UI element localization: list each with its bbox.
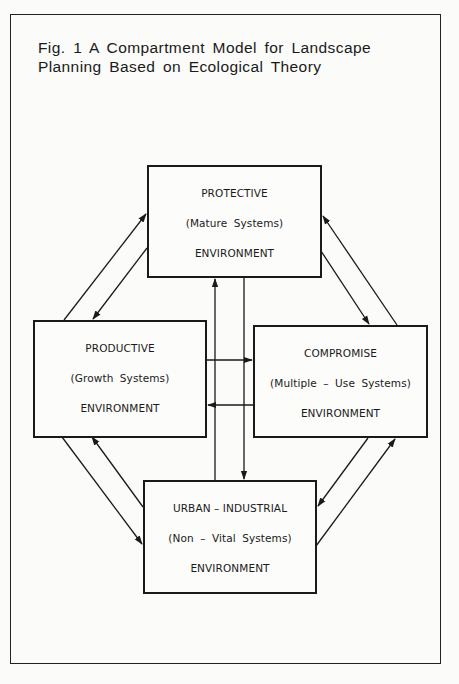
compartment-systems: (Non – Vital Systems): [145, 532, 315, 544]
compartment-systems: (Mature Systems): [149, 217, 320, 229]
productive-environment-box: PRODUCTIVE (Growth Systems) ENVIRONMENT: [33, 320, 207, 438]
arrow-urban-to-productive: [92, 437, 143, 507]
compromise-environment-box: COMPROMISE (Multiple – Use Systems) ENVI…: [253, 325, 428, 438]
compartment-label: ENVIRONMENT: [145, 562, 315, 574]
compartment-name: COMPROMISE: [255, 347, 426, 359]
compartment-name: PRODUCTIVE: [35, 342, 205, 354]
compartment-name: PROTECTIVE: [149, 187, 320, 199]
arrow-productive-to-urban: [62, 437, 142, 544]
compartment-label: ENVIRONMENT: [149, 247, 320, 259]
compartment-label: ENVIRONMENT: [35, 402, 205, 414]
compartment-systems: (Multiple – Use Systems): [255, 377, 426, 389]
arrow-protective-to-productive: [93, 248, 147, 319]
urban-industrial-environment-box: URBAN – INDUSTRIAL (Non – Vital Systems)…: [143, 480, 317, 594]
arrow-protective-to-compromise: [321, 251, 369, 324]
arrow-compromise-to-urban: [318, 438, 368, 506]
protective-environment-box: PROTECTIVE (Mature Systems) ENVIRONMENT: [147, 165, 322, 278]
compartment-name: URBAN – INDUSTRIAL: [145, 502, 315, 514]
compartment-label: ENVIRONMENT: [255, 407, 426, 419]
compartment-systems: (Growth Systems): [35, 372, 205, 384]
